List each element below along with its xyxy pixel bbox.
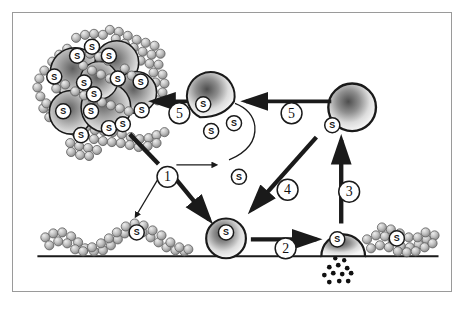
svg-text:S: S [334,234,340,244]
receptor-cluster-9[interactable]: S [134,103,149,118]
svg-text:S: S [138,77,144,87]
receptor-cluster-13[interactable]: S [101,121,116,136]
step-5a[interactable]: 5 [169,103,190,124]
svg-text:1: 1 [164,169,171,184]
receptor-vesicle-bud[interactable]: S [218,225,233,240]
vesicle-multireceptor [187,72,235,117]
receptor-cluster-14[interactable]: S [115,117,130,132]
step-2[interactable]: 2 [275,238,296,259]
svg-text:S: S [208,126,214,136]
arrow-step1-to-budding [172,175,209,220]
svg-text:S: S [88,106,94,116]
granule-release [322,256,354,284]
svg-text:S: S [74,51,80,61]
svg-text:5: 5 [176,106,183,121]
svg-text:3: 3 [346,184,353,199]
svg-text:S: S [115,74,121,84]
step-3[interactable]: 3 [339,181,360,202]
receptor-cluster-10[interactable]: S [56,104,71,119]
receptor-cluster-11[interactable]: S [83,104,98,119]
receptor-vesicle-a3[interactable]: S [226,116,241,131]
receptor-cluster-12[interactable]: S [74,128,89,143]
svg-text:S: S [231,118,237,128]
svg-text:S: S [134,227,140,237]
svg-text:S: S [223,227,229,237]
svg-text:S: S [106,123,112,133]
svg-text:4: 4 [284,182,291,197]
svg-text:S: S [60,106,66,116]
svg-text:S: S [51,72,57,82]
receptor-cluster-8[interactable]: S [133,74,148,89]
receptor-cluster-5[interactable]: S [110,71,125,86]
receptor-vesicle-a1[interactable]: S [196,97,211,112]
svg-text:S: S [329,120,335,130]
curve-receptor-to-vesicle [229,103,255,160]
svg-text:S: S [200,99,206,109]
receptor-cluster-2[interactable]: S [70,48,85,63]
step-5b[interactable]: 5 [281,103,302,124]
svg-text:S: S [236,172,242,182]
receptor-chain-left[interactable]: S [129,225,144,240]
receptor-vesicle-b[interactable]: S [325,118,340,133]
svg-text:S: S [81,78,87,88]
svg-text:S: S [78,130,84,140]
receptor-free[interactable]: S [231,169,246,184]
receptor-cluster-3[interactable]: S [101,48,116,63]
svg-text:S: S [120,119,126,129]
figure-frame: SSSSSSSSSSSSSSSSSSSSSSS 123455 [12,12,452,292]
svg-text:2: 2 [282,241,289,256]
polymer-chain-left [41,219,193,256]
step-1[interactable]: 1 [157,166,178,187]
receptor-vesicle-fuse[interactable]: S [330,232,345,247]
svg-text:S: S [91,89,97,99]
receptor-chain-right[interactable]: S [389,231,404,246]
svg-text:S: S [89,42,95,52]
svg-text:S: S [139,105,145,115]
svg-text:5: 5 [288,106,295,121]
arrow-step1-to-chain-receptor [136,175,161,217]
diagram-canvas: SSSSSSSSSSSSSSSSSSSSSSS 123455 [13,13,451,291]
svg-text:S: S [106,51,112,61]
receptor-vesicle-a2[interactable]: S [204,124,219,139]
step-4[interactable]: 4 [277,179,298,200]
receptor-cluster-1[interactable]: S [84,39,99,54]
receptor-cluster-7[interactable]: S [77,75,92,90]
receptor-cluster-4[interactable]: S [47,69,62,84]
svg-text:S: S [394,233,400,243]
